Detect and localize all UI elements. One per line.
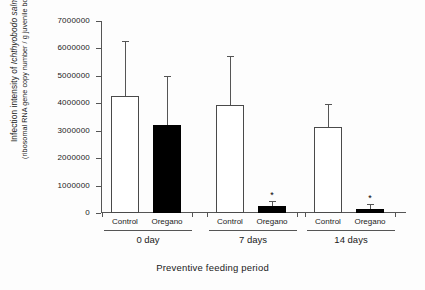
error-bar	[230, 57, 231, 105]
significance-marker: *	[356, 194, 384, 203]
error-bar	[125, 42, 126, 97]
y-axis-tick	[96, 158, 101, 159]
bar-oregano-0-day	[153, 125, 181, 213]
x-axis-category-label: Control	[211, 217, 249, 226]
bar-oregano-14-days	[356, 209, 384, 213]
bar-control-7-days	[216, 105, 244, 213]
error-bar-cap	[367, 204, 374, 205]
x-axis-group-label: 14 days	[297, 234, 405, 245]
x-axis-category-label: Oregano	[148, 217, 186, 226]
y-axis-tick	[96, 186, 101, 187]
x-axis-title: Preventive feeding period	[0, 262, 425, 273]
figure-canvas: Infection intensity of Ichthyobodo salmo…	[0, 0, 425, 290]
y-axis-tick	[96, 48, 101, 49]
bar-control-0-day	[111, 96, 139, 213]
bar-oregano-7-days	[258, 206, 286, 213]
error-bar-cap	[325, 104, 332, 105]
plot-area: **	[101, 21, 406, 213]
x-axis-category-label: Oregano	[351, 217, 389, 226]
y-axis-tick-label: 7000000	[57, 17, 90, 25]
error-bar-cap	[122, 41, 129, 42]
x-axis-group-label: 0 day	[94, 234, 202, 245]
error-bar-cap	[227, 56, 234, 57]
y-axis-tick	[96, 103, 101, 104]
error-bar-cap	[269, 201, 276, 202]
y-axis-tick-label: 1000000	[57, 182, 90, 190]
y-axis-tick-label: 3000000	[57, 127, 90, 135]
y-axis-tick-label: 0	[85, 209, 90, 217]
y-axis-tick	[96, 21, 101, 22]
x-axis-group-label: 7 days	[199, 234, 307, 245]
group-underline	[104, 230, 192, 231]
group-underline	[307, 230, 395, 231]
group-underline	[209, 230, 297, 231]
y-axis-tick-labels: 7000000600000050000004000000300000020000…	[0, 21, 96, 213]
y-axis-tick-label: 5000000	[57, 72, 90, 80]
x-axis-category-label: Oregano	[253, 217, 291, 226]
error-bar	[272, 202, 273, 206]
y-axis-line	[101, 21, 102, 213]
error-bar-cap	[164, 76, 171, 77]
x-axis-labels: ControlOregano0 dayControlOregano7 daysC…	[101, 214, 406, 260]
y-axis-tick-label: 6000000	[57, 44, 90, 52]
y-axis-tick-label: 4000000	[57, 99, 90, 107]
significance-marker: *	[258, 191, 286, 200]
error-bar	[167, 77, 168, 125]
x-axis-category-label: Control	[106, 217, 144, 226]
y-axis-tick-label: 2000000	[57, 154, 90, 162]
y-axis-tick	[96, 131, 101, 132]
bar-control-14-days	[314, 127, 342, 213]
error-bar	[328, 105, 329, 127]
error-bar	[370, 205, 371, 209]
x-axis-category-label: Control	[309, 217, 347, 226]
y-axis-tick	[96, 76, 101, 77]
